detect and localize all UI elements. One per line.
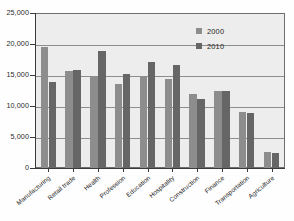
y-axis-tick-mark: [30, 137, 35, 138]
x-axis-tick-mark: [98, 168, 99, 172]
x-axis-label: Profession: [98, 174, 126, 199]
x-axis-label: Agriculture: [246, 174, 275, 200]
bar-2000-transportation: [239, 112, 246, 168]
x-axis-label: Education: [124, 174, 151, 198]
x-axis-tick-mark: [148, 168, 149, 172]
bar-group: [61, 13, 86, 168]
bar-2010-profession: [123, 74, 130, 168]
y-axis-tick-mark: [30, 75, 35, 76]
bar-2000-education: [140, 77, 147, 168]
bar-2010-retail-trade: [73, 70, 80, 168]
x-axis-tick-mark: [272, 168, 273, 172]
bar-group: [110, 13, 135, 168]
legend-swatch-icon: [196, 43, 202, 49]
x-axis-tick-mark: [247, 168, 248, 172]
bar-group: [135, 13, 160, 168]
bar-group: [86, 13, 111, 168]
bar-2000-hospitality: [165, 79, 172, 168]
x-axis-label: Health: [82, 174, 101, 192]
bar-chart: 05,00010,00015,00020,00025,000 Manufactu…: [0, 0, 294, 221]
bar-2000-profession: [115, 84, 122, 168]
y-axis-tick-mark: [30, 106, 35, 107]
x-axis-label: Manufacturing: [15, 174, 52, 206]
bar-2010-finance: [222, 91, 229, 168]
y-axis-tick-mark: [30, 13, 35, 14]
bar-2010-agriculture: [272, 153, 279, 168]
bar-2010-manufacturing: [49, 82, 56, 168]
x-axis-tick-mark: [48, 168, 49, 172]
bar-group: [259, 13, 284, 168]
x-axis-label: Finance: [203, 174, 225, 194]
x-axis-tick-mark: [73, 168, 74, 172]
legend-item: 2000: [196, 25, 254, 37]
bar-2000-retail-trade: [65, 71, 72, 168]
bar-group: [36, 13, 61, 168]
legend-label: 2010: [207, 42, 224, 51]
bar-2010-construction: [197, 99, 204, 168]
x-axis-tick-mark: [123, 168, 124, 172]
legend-item: 2010: [196, 40, 254, 52]
bar-group: [160, 13, 185, 168]
y-axis: 05,00010,00015,00020,00025,000: [0, 0, 35, 168]
bar-2000-construction: [189, 94, 196, 168]
legend-label: 2000: [207, 27, 224, 36]
bar-2010-transportation: [247, 113, 254, 168]
legend: 20002010: [196, 25, 254, 55]
x-axis-tick-mark: [197, 168, 198, 172]
x-axis-tick-mark: [222, 168, 223, 172]
x-axis-tick-mark: [172, 168, 173, 172]
bar-2010-hospitality: [173, 65, 180, 168]
bar-2000-agriculture: [264, 152, 271, 168]
bar-2000-health: [90, 76, 97, 168]
bar-2010-health: [98, 51, 105, 168]
y-axis-tick-mark: [30, 44, 35, 45]
x-axis-labels: ManufacturingRetail tradeHealthProfessio…: [0, 168, 294, 221]
bar-2010-education: [148, 62, 155, 168]
bar-2000-manufacturing: [41, 47, 48, 169]
legend-swatch-icon: [196, 28, 202, 34]
bar-2000-finance: [214, 91, 221, 168]
